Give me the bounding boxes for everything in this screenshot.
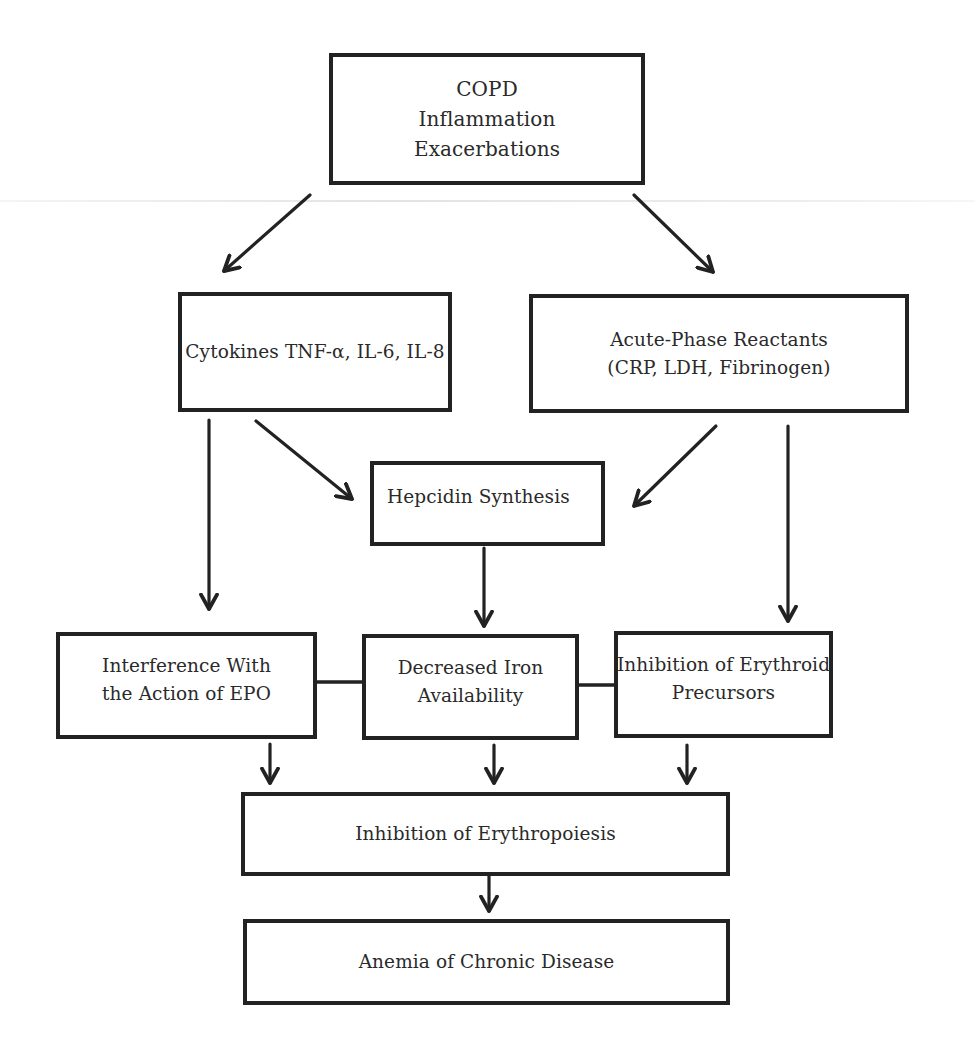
node-label-line: Inhibition of Erythroid xyxy=(617,651,830,679)
node-label-line: the Action of EPO xyxy=(102,680,271,708)
node-cytokines: Cytokines TNF-α, IL-6, IL-8 xyxy=(178,292,452,412)
node-label-line: Anemia of Chronic Disease xyxy=(359,948,615,976)
node-label-line: Decreased Iron xyxy=(398,654,544,682)
node-acute-phase-reactants: Acute-Phase Reactants (CRP, LDH, Fibrino… xyxy=(529,294,909,413)
node-label-line: Inhibition of Erythropoiesis xyxy=(355,820,616,848)
node-label-line: Interference With xyxy=(102,652,271,680)
node-label-line: Precursors xyxy=(672,679,775,707)
node-label-line: Cytokines TNF-α, IL-6, IL-8 xyxy=(185,338,444,366)
node-hepcidin-synthesis: Hepcidin Synthesis xyxy=(370,461,605,546)
node-label-line: COPD xyxy=(456,74,518,104)
arrow-copd-to-acute-phase xyxy=(634,195,713,272)
node-label-line: Inflammation xyxy=(419,104,556,134)
node-label-line: (CRP, LDH, Fibrinogen) xyxy=(607,354,830,382)
node-label-line: Availability xyxy=(418,682,524,710)
node-label-line: Acute-Phase Reactants xyxy=(610,326,828,354)
node-label-line: Hepcidin Synthesis xyxy=(387,483,570,511)
node-inhibition-erythropoiesis: Inhibition of Erythropoiesis xyxy=(241,792,730,876)
arrow-cytokines-to-hepcidin xyxy=(256,421,352,499)
node-copd-inflammation: COPD Inflammation Exacerbations xyxy=(329,53,645,185)
node-decreased-iron: Decreased Iron Availability xyxy=(362,634,579,740)
node-interference-epo: Interference With the Action of EPO xyxy=(56,632,317,739)
node-label-line: Exacerbations xyxy=(414,134,560,164)
arrow-acute-phase-to-hepcidin xyxy=(634,426,716,506)
node-inhibition-erythroid: Inhibition of Erythroid Precursors xyxy=(614,631,833,738)
node-anemia-chronic-disease: Anemia of Chronic Disease xyxy=(243,919,730,1005)
arrow-copd-to-cytokines xyxy=(224,195,310,271)
